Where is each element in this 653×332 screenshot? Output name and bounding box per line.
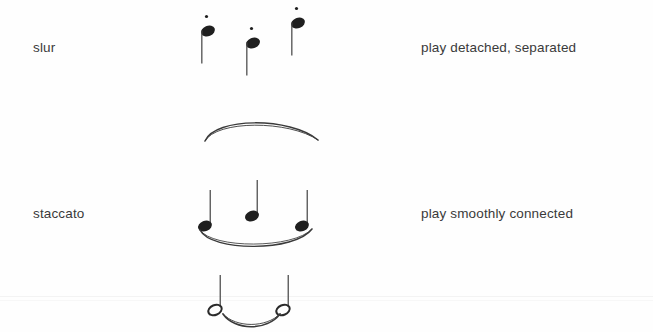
meaning-label: play detached, separated bbox=[421, 40, 576, 55]
table-row: tie curved line indicating legato bbox=[0, 166, 653, 249]
reference-sheet: slur play detached, separated staccato p… bbox=[0, 0, 653, 332]
term-label: slur bbox=[33, 40, 55, 55]
table-row: legato hold for combined value bbox=[0, 249, 653, 332]
table-row: staccato play smoothly connected bbox=[0, 83, 653, 166]
table-row: slur play detached, separated bbox=[0, 0, 653, 83]
